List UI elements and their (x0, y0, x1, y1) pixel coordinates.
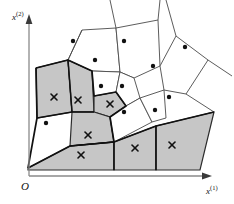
dot-marker (44, 121, 48, 125)
dot-marker (153, 108, 157, 112)
shaded-cell-center-low (70, 112, 114, 146)
shaded-cell-left (36, 60, 72, 118)
x-axis-label: x(1) (206, 184, 218, 196)
origin-label: O (21, 180, 29, 192)
dot-marker (122, 110, 126, 114)
dot-marker (167, 95, 171, 99)
dot-marker (93, 58, 97, 62)
x-axis-label-superscript: (1) (210, 184, 218, 191)
voronoi-figure (0, 0, 234, 204)
dot-marker (183, 45, 187, 49)
dot-marker (99, 84, 103, 88)
y-axis-label: x(2) (12, 10, 24, 22)
y-axis-label-superscript: (2) (16, 10, 24, 17)
dot-marker (120, 84, 124, 88)
dot-marker (71, 39, 75, 43)
dot-marker (122, 39, 126, 43)
plain-cell-top-mid (116, 20, 160, 78)
dot-marker (151, 64, 155, 68)
